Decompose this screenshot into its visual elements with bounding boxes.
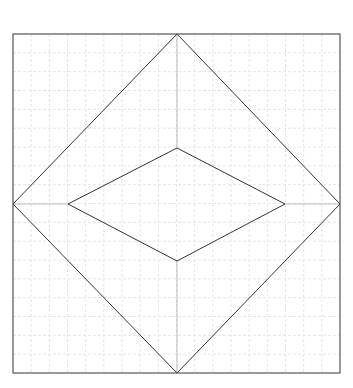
diagram-canvas — [0, 0, 353, 388]
connector-lines — [13, 34, 340, 373]
